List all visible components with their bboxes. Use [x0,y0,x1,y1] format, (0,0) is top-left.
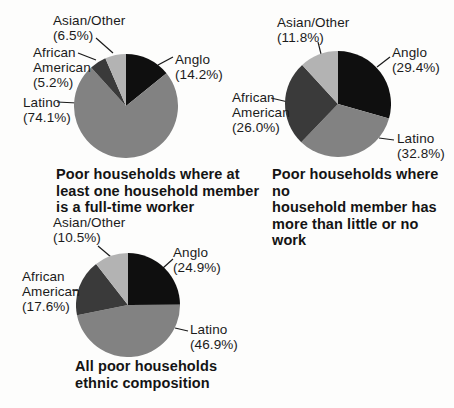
chart-caption-all-poor-households: All poor households ethnic composition [75,358,217,391]
label-text: Latino [397,131,445,146]
slice-label-anglo: Anglo (24.9%) [173,245,221,275]
label-pct: (29.4%) [392,60,440,75]
caption-line: ethnic composition [75,375,217,392]
chart-caption-little-or-no-work: Poor households where no household membe… [272,166,454,249]
label-pct: (32.8%) [397,146,445,161]
slice-label-latino: Latino (32.8%) [397,131,445,161]
caption-line: more than little or no work [272,216,454,249]
caption-line: Poor households where no [272,166,454,199]
slice-label-latino: Latino (74.1%) [23,95,71,125]
label-pct: (6.5%) [53,28,125,43]
label-text: African American [232,90,298,120]
label-text: Anglo [392,45,440,60]
label-text: Latino [23,95,71,110]
label-pct: (17.6%) [22,299,88,314]
caption-line: is a full-time worker [56,199,259,216]
slice-label-african-american: African American (26.0%) [232,90,298,135]
label-pct: (26.0%) [232,120,298,135]
slice-label-asian-other: Asian/Other (11.8%) [277,15,349,45]
caption-line: Poor households where at [56,166,259,183]
label-pct: (11.8%) [277,30,349,45]
slice-label-latino: Latino (46.9%) [190,322,238,352]
slice-label-anglo: Anglo (14.2%) [175,52,223,82]
pie-chart-all-poor-households [76,253,180,357]
label-pct: (74.1%) [23,110,71,125]
caption-line: least one household member [56,183,259,200]
slice-label-anglo: Anglo (29.4%) [392,45,440,75]
label-text: African American [33,45,99,75]
slice-label-asian-other: Asian/Other (6.5%) [53,13,125,43]
slice-label-african-american: African American (17.6%) [22,269,88,314]
slice-label-african-american: African American (5.2%) [33,45,99,90]
label-text: Asian/Other [277,15,349,30]
label-text: Anglo [175,52,223,67]
label-text: Anglo [173,245,221,260]
label-pct: (10.5%) [53,230,125,245]
label-text: Asian/Other [53,13,125,28]
caption-line: household member has [272,199,454,216]
label-text: Asian/Other [53,215,125,230]
label-pct: (24.9%) [173,260,221,275]
label-text: African American [22,269,88,299]
slice-label-asian-other: Asian/Other (10.5%) [53,215,125,245]
label-pct: (46.9%) [190,337,238,352]
label-text: Latino [190,322,238,337]
pie-slice-latino [77,305,180,357]
figure-canvas: Asian/Other (6.5%) African American (5.2… [0,0,454,408]
caption-line: All poor households [75,358,217,375]
pie-chart-little-or-no-work [285,51,391,157]
chart-caption-fulltime-worker: Poor households where at least one house… [56,166,259,216]
label-pct: (14.2%) [175,67,223,82]
label-pct: (5.2%) [33,75,99,90]
